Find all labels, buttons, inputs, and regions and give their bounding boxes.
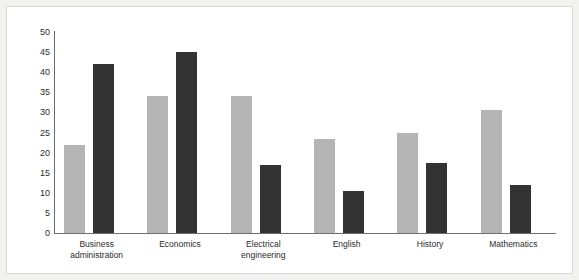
bar[interactable]: [481, 110, 502, 233]
y-axis-tick-label: 10: [10, 188, 50, 197]
y-axis-tick-label: 20: [10, 148, 50, 157]
bar[interactable]: [397, 133, 418, 234]
bar-group: [472, 32, 555, 233]
bar-group: [55, 32, 138, 233]
bar-group: [388, 32, 471, 233]
bar[interactable]: [147, 96, 168, 233]
y-axis-tick-label: 40: [10, 68, 50, 77]
bar-group: [138, 32, 221, 233]
y-axis-tick-label: 25: [10, 128, 50, 137]
bar[interactable]: [64, 145, 85, 233]
bar[interactable]: [176, 52, 197, 233]
bar-group: [305, 32, 388, 233]
bar[interactable]: [510, 185, 531, 233]
x-axis-tick-label: Economics: [138, 239, 222, 250]
x-axis-line: [54, 233, 556, 234]
bar-group: [222, 32, 305, 233]
x-axis-tick-label: History: [388, 239, 472, 250]
y-axis-tick-label: 15: [10, 168, 50, 177]
bar[interactable]: [231, 96, 252, 233]
y-axis-tick-label: 35: [10, 88, 50, 97]
y-axis-tick-label: 50: [10, 28, 50, 37]
x-axis-tick-label: Businessadministration: [55, 239, 139, 261]
y-axis-tick-label: 30: [10, 108, 50, 117]
bar[interactable]: [343, 191, 364, 233]
x-axis-tick-label: Mathematics: [471, 239, 555, 250]
y-axis: 05101520253035404550: [7, 7, 50, 280]
bar[interactable]: [314, 139, 335, 233]
plot-area: [55, 32, 555, 233]
y-axis-tick-label: 45: [10, 48, 50, 57]
y-axis-tick-label: 5: [10, 208, 50, 217]
x-axis-tick-label: Electricalengineering: [221, 239, 305, 261]
x-axis-tick-label: English: [305, 239, 389, 250]
bar[interactable]: [426, 163, 447, 233]
bar[interactable]: [260, 165, 281, 233]
bar[interactable]: [93, 64, 114, 233]
chart-frame: 05101520253035404550 Businessadministrat…: [6, 6, 573, 274]
y-axis-tick-label: 0: [10, 229, 50, 238]
